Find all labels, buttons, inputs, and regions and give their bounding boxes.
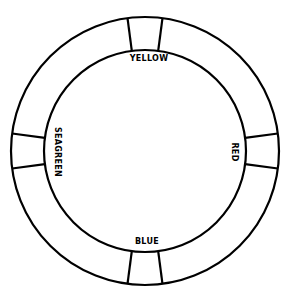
segment-divider-seagreen-start xyxy=(12,164,45,168)
ring-graphic xyxy=(0,0,294,302)
segment-divider-blue-start xyxy=(158,251,162,284)
segment-divider-yellow-start xyxy=(128,18,132,51)
segment-label-blue: BLUE xyxy=(135,238,159,246)
segment-label-red: RED xyxy=(230,142,238,161)
segment-label-yellow: YELLOW xyxy=(130,55,169,63)
segment-label-seagreen: SEAGREEN xyxy=(53,127,61,177)
segment-divider-red-start xyxy=(245,134,278,138)
segment-divider-yellow-end xyxy=(158,18,162,51)
inner-circle xyxy=(44,50,246,252)
segment-divider-blue-end xyxy=(128,251,132,284)
color-ring-diagram: YELLOW RED BLUE SEAGREEN xyxy=(0,0,294,302)
segment-divider-red-end xyxy=(245,164,278,168)
segment-divider-seagreen-end xyxy=(12,134,45,138)
